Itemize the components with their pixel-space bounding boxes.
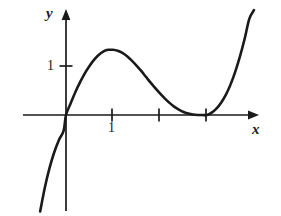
cubic-curve (40, 10, 254, 211)
y-axis-label: y (46, 6, 53, 21)
x-axis-label: x (252, 122, 260, 137)
x-axis-arrow-icon (248, 111, 259, 120)
graph-figure: y x 1 1 (0, 0, 281, 216)
y-axis-arrow-icon (62, 9, 71, 20)
plot-canvas (0, 0, 281, 216)
x-tick-label-1: 1 (108, 121, 115, 135)
y-tick-label-1: 1 (47, 59, 54, 73)
